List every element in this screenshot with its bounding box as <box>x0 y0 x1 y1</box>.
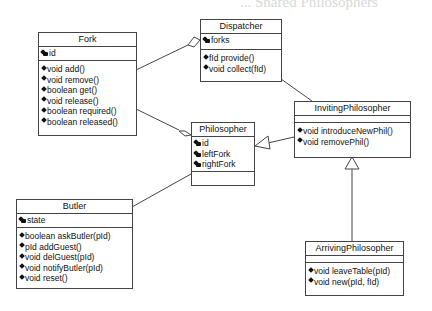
fork-dispatcher-link <box>136 45 188 70</box>
operations-compartment: void introduceNewPhil() void removePhil(… <box>295 123 410 149</box>
class-butler[interactable]: Butler state boolean askButler(pId) pId … <box>16 199 133 289</box>
attribute-icon <box>41 50 48 56</box>
attributes-compartment <box>306 256 403 263</box>
operation-icon <box>19 242 25 248</box>
operation-icon <box>203 64 209 70</box>
attribute-icon <box>203 37 210 43</box>
operation-row: void introduceNewPhil() <box>297 126 408 137</box>
attributes-compartment: forks <box>201 34 281 50</box>
operation-icon <box>308 277 314 283</box>
attribute-row: state <box>19 215 130 226</box>
operations-compartment: void leaveTable(pId) void new(pId, fId) <box>306 263 403 289</box>
class-inviting-philosopher[interactable]: InvitingPhilosopher void introduceNewPhi… <box>294 101 411 158</box>
operation-row: void new(pId, fId) <box>308 277 401 288</box>
dispatcher-inviting-link <box>281 79 312 101</box>
operation-row: void collect(fId) <box>203 64 279 75</box>
attribute-icon <box>194 151 201 157</box>
attributes-compartment: id leftFork rightFork <box>192 137 254 172</box>
operation-row: pId addGuest() <box>19 242 130 253</box>
inviting-philosopher-generalization-link <box>268 137 294 143</box>
operation-icon <box>308 267 314 273</box>
operation-row: void reset() <box>19 273 130 284</box>
operation-icon <box>41 65 47 71</box>
attribute-icon <box>194 161 201 167</box>
class-dispatcher[interactable]: Dispatcher forks fId provide() void coll… <box>200 19 282 82</box>
class-arriving-philosopher[interactable]: ArrivingPhilosopher void leaveTable(pId)… <box>305 241 404 296</box>
operation-row: boolean get() <box>41 85 134 96</box>
generalization-arrow-icon <box>255 136 270 149</box>
attribute-row: id <box>41 48 134 59</box>
class-name: Philosopher <box>192 123 254 137</box>
fork-philosopher-link <box>136 109 179 130</box>
class-name: ArrivingPhilosopher <box>306 242 403 256</box>
attributes-compartment: id <box>39 47 136 61</box>
operations-compartment: void add() void remove() boolean get() v… <box>39 61 136 129</box>
operation-icon <box>41 96 47 102</box>
operation-row: void notifyButler(pId) <box>19 263 130 274</box>
operation-icon <box>19 253 25 259</box>
operation-icon <box>41 86 47 92</box>
operation-icon <box>19 232 25 238</box>
operation-icon <box>41 75 47 81</box>
class-name: Butler <box>17 200 132 214</box>
attribute-row: id <box>194 138 252 149</box>
operation-row: void delGuest(pId) <box>19 252 130 263</box>
operation-row: void release() <box>41 96 134 107</box>
attribute-row: forks <box>203 35 279 46</box>
attributes-compartment <box>295 116 410 123</box>
operations-compartment: fId provide() void collect(fId) <box>201 50 281 76</box>
class-name: Fork <box>39 33 136 47</box>
attribute-row: rightFork <box>194 159 252 170</box>
operation-row: void remove() <box>41 75 134 86</box>
operation-icon <box>41 117 47 123</box>
attributes-compartment: state <box>17 214 132 228</box>
attribute-row: leftFork <box>194 149 252 160</box>
operation-row: void removePhil() <box>297 137 408 148</box>
operation-icon <box>19 263 25 269</box>
operation-row: void add() <box>41 64 134 75</box>
aggregation-diamond-icon <box>188 37 200 47</box>
attribute-icon <box>19 217 26 223</box>
butler-philosopher-link <box>132 174 191 207</box>
operations-compartment <box>192 172 254 177</box>
class-name: InvitingPhilosopher <box>295 102 410 116</box>
class-fork[interactable]: Fork id void add() void remove() boolean… <box>38 32 137 136</box>
operation-icon <box>41 107 47 113</box>
operation-row: boolean released() <box>41 117 134 128</box>
operation-icon <box>297 137 303 143</box>
operation-icon <box>297 127 303 133</box>
generalization-arrow-icon <box>345 157 359 169</box>
attribute-icon <box>194 140 201 146</box>
operation-row: boolean required() <box>41 106 134 117</box>
class-philosopher[interactable]: Philosopher id leftFork rightFork <box>191 122 255 186</box>
class-name: Dispatcher <box>201 20 281 34</box>
operation-icon <box>19 274 25 280</box>
operation-row: fId provide() <box>203 53 279 64</box>
operation-row: void leaveTable(pId) <box>308 266 401 277</box>
operation-icon <box>203 54 209 60</box>
operations-compartment: boolean askButler(pId) pId addGuest() vo… <box>17 228 132 286</box>
operation-row: boolean askButler(pId) <box>19 231 130 242</box>
aggregation-diamond-icon <box>179 131 191 136</box>
